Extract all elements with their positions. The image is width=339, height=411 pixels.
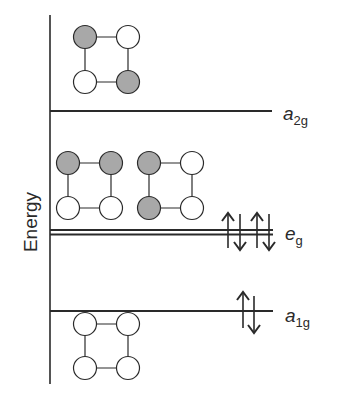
orbital-lobe-shaded [138,152,161,175]
eg-electron-pair-2 [251,213,275,250]
orbital-lobe [117,26,140,49]
orbital-lobe [181,152,204,175]
orbital-lobe [117,357,140,380]
eg-electron-pair-1 [222,213,246,250]
a2g-label: a2g [283,103,308,128]
orbital-lobe [74,71,97,94]
orbital-lobe-shaded [117,71,140,94]
orbital-lobe-shaded [74,26,97,49]
energy-axis-label: Energy [20,191,41,252]
orbital-lobe [57,197,80,220]
a1g-electron-pair [237,292,260,333]
mo-diagram: Energy a2g eg [0,0,339,411]
level-a2g: a2g [50,26,308,129]
orbital-lobe-shaded [138,197,161,220]
orbital-lobe [100,197,123,220]
eg-orbital-square-2 [138,152,204,220]
spin-down-arrow-icon [263,214,275,250]
a1g-label: a1g [285,305,310,330]
eg-label: eg [285,223,303,248]
spin-down-arrow-icon [248,296,260,333]
level-eg: eg [50,152,303,251]
orbital-lobe [181,197,204,220]
spin-down-arrow-icon [234,214,246,250]
orbital-lobe-shaded [100,152,123,175]
orbital-lobe [74,357,97,380]
orbital-lobe [74,313,97,336]
orbital-lobe-shaded [57,152,80,175]
a1g-orbital-square [74,313,140,380]
level-a1g: a1g [50,292,310,380]
a2g-orbital-square [74,26,140,94]
eg-orbital-square-1 [57,152,123,220]
orbital-lobe [117,313,140,336]
